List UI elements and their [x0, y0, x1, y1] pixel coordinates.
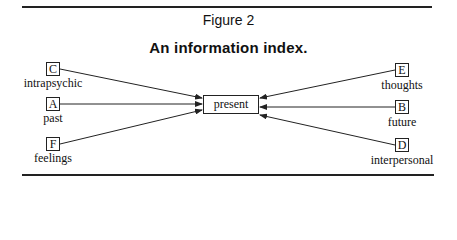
- node-A-box: A: [46, 97, 60, 111]
- node-A-label: past: [43, 111, 62, 126]
- node-F-box: F: [46, 137, 60, 151]
- bottom-rule: [22, 174, 434, 176]
- node-E-label: thoughts: [381, 78, 422, 93]
- present-box: present: [203, 95, 259, 114]
- node-B-box: B: [395, 100, 409, 114]
- node-C-label: intrapsychic: [24, 76, 83, 91]
- edge-D-present: [260, 115, 395, 145]
- node-E-box: E: [395, 63, 409, 77]
- edge-E-present: [260, 70, 395, 98]
- node-D-label: interpersonal: [371, 153, 434, 168]
- node-D-box: D: [395, 138, 409, 152]
- node-F-label: feelings: [34, 151, 72, 166]
- edge-F-present: [60, 110, 202, 144]
- node-B-label: future: [388, 115, 417, 130]
- node-C-box: C: [46, 62, 60, 76]
